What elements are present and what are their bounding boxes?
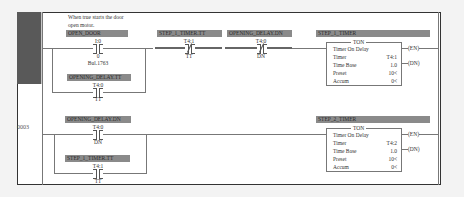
ton-preset-row: Preset10<	[333, 156, 397, 163]
timer-label: Timer	[333, 54, 346, 61]
ton-instruction-block[interactable]: TON Timer On Delay TimerT4:1 Time Base1.…	[326, 42, 402, 86]
ton-type-label: TON	[351, 125, 366, 132]
ton-type-label: TON	[351, 39, 366, 46]
tag-opening-delay-dn[interactable]: OPENING_DELAY.DN	[227, 30, 292, 37]
xic-contact-icon[interactable]	[93, 88, 103, 96]
timer-value[interactable]: T4:2	[387, 140, 397, 147]
xic-contact-icon[interactable]	[93, 130, 103, 138]
en-coil-icon: (EN)	[408, 131, 419, 138]
accum-label: Accum	[333, 164, 349, 171]
rung-wire	[225, 47, 257, 49]
accum-value: 0<	[391, 164, 397, 171]
timebase-label: Time Base	[333, 148, 356, 155]
tag-step-1-timer[interactable]: STEP_1_TIMER	[316, 30, 430, 37]
dn-coil-icon: (DN)	[408, 60, 420, 67]
bit-label: TT	[88, 178, 108, 184]
tag-opening-delay-dn[interactable]: OPENING_DELAY.DN	[65, 116, 131, 123]
branch-wire	[145, 48, 146, 93]
bit-label: TT	[179, 53, 199, 59]
branch-wire	[146, 134, 147, 174]
tag-opening-delay-tt[interactable]: OPENING_DELAY.TT	[67, 74, 131, 81]
ton-title: Timer On Delay	[333, 132, 369, 139]
left-power-rail	[42, 12, 43, 185]
timebase-label: Time Base	[333, 62, 356, 69]
xic-contact-icon[interactable]	[93, 169, 103, 177]
xio-contact-icon[interactable]	[257, 44, 267, 52]
accum-label: Accum	[333, 78, 349, 85]
preset-value[interactable]: 10<	[388, 156, 397, 163]
ton-preset-row: Preset10<	[333, 70, 397, 77]
preset-value[interactable]: 10<	[388, 70, 397, 77]
tag-step-2-timer[interactable]: STEP_2_TIMER	[316, 116, 430, 123]
tag-step-1-timer-tt[interactable]: STEP_1_TIMER.TT	[65, 155, 130, 162]
ton-title-row: Timer On Delay	[333, 46, 397, 53]
timer-value[interactable]: T4:1	[387, 54, 397, 61]
ton-title: Timer On Delay	[333, 46, 369, 53]
xio-contact-icon[interactable]	[185, 44, 195, 52]
bit-label: TT	[88, 96, 108, 102]
ton-timebase-row: Time Base1.0	[333, 62, 397, 69]
rung-wire	[194, 47, 222, 49]
timer-label: Timer	[333, 140, 346, 147]
right-power-rail	[438, 12, 439, 185]
ton-accum-row: Accum0<	[333, 78, 397, 85]
en-coil-icon: (EN)	[408, 45, 419, 52]
timebase-value[interactable]: 1.0	[390, 62, 397, 69]
rung-selection-gutter[interactable]	[17, 12, 43, 84]
ton-timer-row: TimerT4:2	[333, 140, 397, 147]
accum-value: 0<	[391, 78, 397, 85]
tag-step-1-timer-tt[interactable]: STEP_1_TIMER.TT	[157, 30, 222, 37]
ton-instruction-block[interactable]: TON Timer On Delay TimerT4:2 Time Base1.…	[326, 128, 402, 172]
preset-label: Preset	[333, 70, 346, 77]
ton-accum-row: Accum0<	[333, 164, 397, 171]
rung-wire	[43, 134, 326, 135]
ton-title-row: Timer On Delay	[333, 132, 397, 139]
tag-open-door[interactable]: OPEN_DOOR	[66, 30, 128, 37]
xic-contact-icon[interactable]	[93, 44, 103, 52]
branch-wire	[52, 48, 53, 93]
rung-wire	[155, 47, 185, 49]
preset-label: Preset	[333, 156, 346, 163]
bit-label: DN	[251, 53, 271, 59]
rung-comment: When true starts the door open motor.	[68, 13, 130, 29]
rung-number: 0003	[17, 124, 29, 130]
rung-wire	[266, 47, 292, 49]
ton-timer-row: TimerT4:1	[333, 54, 397, 61]
dn-coil-icon: (DN)	[408, 146, 420, 153]
branch-wire	[54, 134, 55, 174]
timebase-value[interactable]: 1.0	[390, 148, 397, 155]
description-label: Bul.1763	[78, 60, 118, 66]
bit-label: DN	[88, 139, 108, 145]
ton-timebase-row: Time Base1.0	[333, 148, 397, 155]
bit-label: 0	[88, 53, 108, 59]
